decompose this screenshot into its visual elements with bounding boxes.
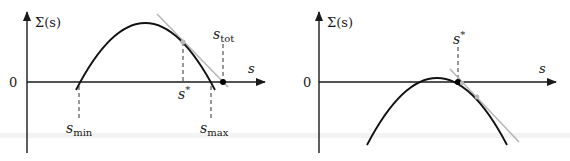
panel-left: Σ(s) 0 s smin smax s* stot (9, 12, 265, 153)
left-sigma-curve (76, 23, 215, 90)
right-tangent-point (475, 95, 480, 100)
panel-right: Σ(s) 0 s s* (303, 12, 556, 153)
right-y-axis-label: Σ(s) (327, 15, 353, 30)
left-tangent-line (157, 14, 228, 87)
right-origin-label: 0 (303, 75, 311, 90)
left-stot-point (220, 79, 226, 85)
left-stot-label: stot (213, 26, 234, 44)
right-tangent-line (450, 69, 519, 142)
left-tangent-point (180, 39, 185, 44)
figure-canvas: Σ(s) 0 s smin smax s* stot Σ(s) 0 s (0, 0, 570, 161)
right-tangent-point-near (460, 81, 464, 85)
left-smin-label: smin (66, 120, 93, 138)
left-origin-label: 0 (9, 75, 17, 90)
right-x-axis-label: s (539, 61, 546, 76)
left-y-axis-label: Σ(s) (35, 15, 61, 30)
left-smax-label: smax (200, 120, 229, 138)
left-sstar-label: s* (178, 84, 190, 102)
right-sstar-label: s* (453, 29, 465, 47)
left-x-axis-label: s (248, 61, 255, 76)
